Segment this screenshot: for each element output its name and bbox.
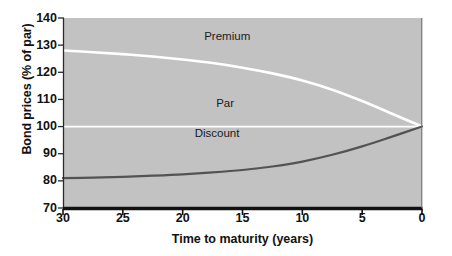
- annotation-premium: Premium: [204, 30, 250, 42]
- x-axis-title: Time to maturity (years): [63, 232, 422, 246]
- x-tick-label-5: 5: [359, 212, 366, 225]
- x-tick-label-0: 0: [419, 212, 426, 225]
- bond-price-chart: 708090100110120130140 302520151050 Bond …: [0, 0, 452, 256]
- x-tick-label-10: 10: [295, 212, 309, 225]
- x-tick-label-25: 25: [116, 212, 130, 225]
- y-axis-title: Bond prices (% of par): [20, 0, 34, 184]
- x-tick-label-20: 20: [176, 212, 190, 225]
- x-tick-label-15: 15: [236, 212, 250, 225]
- x-tick-label-30: 30: [56, 212, 70, 225]
- annotation-discount: Discount: [195, 127, 240, 139]
- annotation-par: Par: [216, 97, 234, 109]
